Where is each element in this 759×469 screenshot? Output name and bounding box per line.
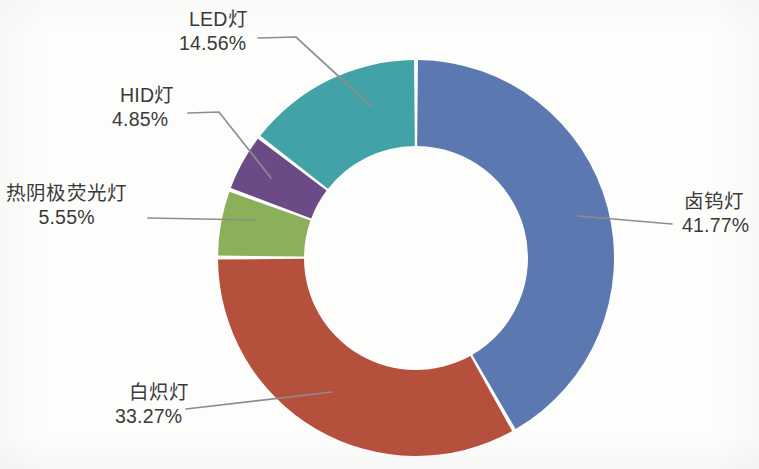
slice-label-incandescent-percent: 33.27% (115, 405, 190, 429)
donut-chart-figure: LED灯 14.56% HID灯 4.85% 热阴极荧光灯 5.55% 白炽灯 … (0, 0, 759, 469)
slice-label-halogen: 卤钨灯 41.77% (682, 190, 749, 238)
slice-label-halogen-percent: 41.77% (682, 214, 749, 238)
donut-slices (218, 60, 614, 456)
slice-label-cold-cathode-fluorescent: 热阴极荧光灯 5.55% (6, 182, 127, 230)
slice-label-led-name: LED灯 (179, 8, 248, 32)
slice-label-incandescent-name: 白炽灯 (115, 381, 190, 405)
slice-label-hid: HID灯 4.85% (112, 84, 174, 132)
slice-label-hid-percent: 4.85% (112, 108, 174, 132)
slice-label-hid-name: HID灯 (112, 84, 174, 108)
slice-incandescent[interactable] (218, 259, 512, 456)
slice-label-incandescent: 白炽灯 33.27% (115, 381, 190, 429)
donut-chart-canvas (0, 0, 759, 469)
slice-label-halogen-name: 卤钨灯 (682, 190, 749, 214)
slice-label-led-percent: 14.56% (179, 32, 248, 56)
slice-label-cold-cathode-fluorescent-percent: 5.55% (6, 206, 127, 230)
slice-label-led: LED灯 14.56% (179, 8, 248, 56)
slice-label-cold-cathode-fluorescent-name: 热阴极荧光灯 (6, 182, 127, 206)
